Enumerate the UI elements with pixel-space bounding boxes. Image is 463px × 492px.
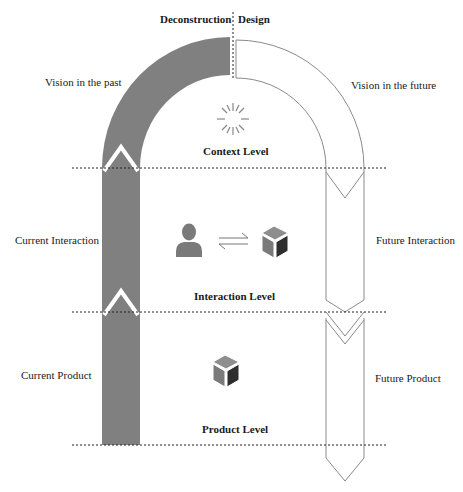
future-column-product (326, 318, 364, 481)
vision-past-label: Vision in the past (45, 76, 122, 88)
cube-icon-product (213, 355, 239, 387)
current-interaction-label: Current Interaction (15, 234, 99, 246)
future-interaction-label: Future Interaction (376, 234, 455, 246)
cube-icon-interaction (262, 226, 288, 258)
diagram-canvas (0, 0, 463, 492)
user-icon (176, 224, 202, 258)
down-chevron-interaction (326, 320, 364, 344)
exchange-arrows-icon (219, 233, 248, 249)
down-chevron-interaction-outer (326, 312, 364, 336)
future-column-interaction (326, 168, 364, 312)
design-label: Design (238, 13, 270, 25)
vision-future-label: Vision in the future (351, 79, 436, 91)
past-path (102, 37, 230, 445)
deconstruction-label: Deconstruction (160, 13, 232, 25)
future-product-label: Future Product (375, 372, 441, 384)
context-level-label: Context Level (203, 145, 269, 157)
current-product-label: Current Product (21, 369, 92, 381)
sunburst-icon (217, 103, 249, 135)
past-column-product (102, 312, 140, 445)
future-path (236, 40, 364, 481)
interaction-level-label: Interaction Level (194, 290, 275, 302)
product-level-label: Product Level (202, 423, 268, 435)
down-chevron-context (326, 172, 364, 198)
